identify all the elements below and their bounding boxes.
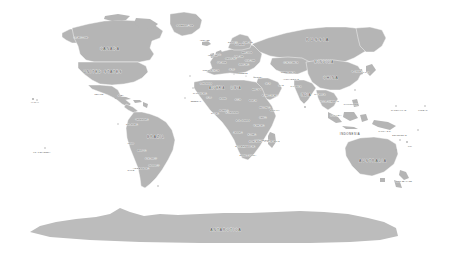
map-label-canada: CANADA [100,47,120,51]
map-label-chile: CHILE [128,169,135,171]
map-label-pacific-island: FR. POLYNESIA [33,151,51,153]
map-label-italy: ITALY [229,68,236,70]
map-label-south-korea: S. KOREA [352,70,363,72]
island-cape-verde [184,97,185,98]
map-label-guinea-bissau: SENEGAL [191,100,202,102]
island-new-caledonia [395,149,397,151]
map-label-venezuela: VENEZUELA [135,118,149,120]
island-kiribati [424,105,426,107]
map-label-united-states: UNITED STATES [83,70,122,74]
map-label-solomon: SOLOMON IS. [392,134,407,136]
map-label-iraq: IRAQ [265,82,271,84]
map-label-angola: ANGOLA [233,131,243,133]
world-map-svg: RUSSIACHINACANADAUNITED STATESBRAZILAUST… [0,0,461,257]
map-label-afghanistan: AFGHANISTAN [283,78,299,80]
island-canary [192,87,193,88]
map-label-turkey: TURKEY [253,76,263,78]
map-label-ukraine: UKRAINE [245,59,256,61]
map-label-south-africa: SOUTH AFRICA [240,154,257,156]
map-label-kenya: KENYA [259,116,267,118]
map-label-russia: RUSSIA [306,37,330,42]
island-galapagos [117,123,118,124]
map-label-saudi-arabia: SAUDI ARABIA [262,94,279,96]
map-label-algeria: ALGERIA [209,86,225,90]
map-label-zimbabwe: ZIMBABWE [249,140,262,142]
map-label-bolivia: BOLIVIA [137,149,147,151]
map-label-dr-congo: D.R. CONGO [236,119,250,121]
map-label-uruguay: URUGUAY [148,164,160,166]
map-label-ireland: IRELAND [208,54,218,56]
map-label-poland: POLAND [234,55,244,57]
map-label-india: INDIA [301,93,311,97]
land-tasmania [380,178,385,182]
map-label-new-zealand: NEW ZEALAND [396,180,413,182]
map-label-france: FRANCE [217,61,227,63]
map-label-botswana: BOTSWANA [243,145,256,147]
map-label-papua: PAPUA N.G. [378,130,391,132]
map-label-myanmar: MYANMAR [314,93,326,95]
map-label-fiji: FIJI [408,145,412,147]
map-label-mexico: MEXICO [95,93,104,95]
map-label-cameroon: CAMEROON [225,111,239,113]
map-label-morocco: MOROCCO [200,82,212,84]
map-label-finland: FINLAND [243,41,253,43]
map-label-japan: JAPAN [362,71,370,73]
map-label-vietnam: VIETNAM [329,100,339,102]
map-label-kazakhstan: KAZAKHSTAN [284,61,299,63]
map-label-indonesia: INDONESIA [340,132,360,136]
map-label-marshall: MARSHALL IS. [391,109,407,111]
map-label-chad: CHAD [235,98,242,100]
map-label-peru: PERU [128,142,135,144]
map-label-malaysia: MALAYSIA [330,114,342,116]
map-label-sweden: SWEDEN [235,43,245,45]
map-label-mali: MALI [206,96,212,98]
map-label-alaska: ALASKA (US) [74,36,89,38]
map-label-argentina: ARGENTINA [133,167,150,169]
map-label-hawaii: HAWAII [31,101,39,103]
map-label-china: CHINA [323,76,339,80]
map-label-somalia: SOMALIA [270,109,281,111]
world-map-canvas: RUSSIACHINACANADAUNITED STATESBRAZILAUST… [0,0,461,257]
island-sri-lanka [304,106,306,108]
map-label-romania: ROMANIA [239,63,250,65]
island-polynesia [44,147,46,149]
map-label-uzbekistan: UZBEKISTAN [281,71,296,73]
map-label-sudan: SUDAN [249,99,257,101]
map-label-greece: GREECE [238,72,248,74]
map-label-greenland: GREENLAND [176,24,193,26]
map-label-paraguay: PARAGUAY [145,157,158,159]
island-crete [245,75,246,76]
map-label-tanzania: TANZANIA [253,124,265,126]
map-label-libya: LIBYA [231,86,241,90]
map-label-niger: NIGER [219,97,227,99]
map-label-zambia: ZAMBIA [248,133,257,135]
map-label-antarctica: ANTARCTICA [210,228,241,232]
map-label-belarus: BELARUS [242,51,253,53]
island-azores [189,75,190,76]
map-label-portugal: PORTUGAL [203,69,215,71]
map-label-australia: AUSTRALIA [359,159,387,163]
island-samoa [417,129,419,131]
island-marshall [395,105,397,107]
map-label-ghana: GHANA [211,112,219,114]
map-label-kiribati: KIRIBATI [418,109,428,111]
map-label-pakistan: PAKISTAN [290,85,301,87]
map-label-cuba: CUBA [118,94,125,96]
map-label-ethiopia: ETHIOPIA [260,106,271,108]
island-vanuatu [399,139,401,141]
island-taiwan [354,89,356,91]
island-fiji [406,141,408,143]
island-sicily [233,73,234,74]
island-falklands [157,185,159,187]
map-label-iran: IRAN [278,84,284,86]
map-label-mongolia: MONGOLIA [314,60,333,64]
map-label-philippines: PHILIPPINES [344,103,359,105]
map-label-brazil: BRAZIL [147,135,165,139]
map-label-colombia: COLOMBIA [126,123,138,125]
map-label-egypt: EGYPT [252,88,262,90]
map-label-mauritania: MAURITANIA [193,92,208,94]
map-label-germany: GERMANY [225,57,237,59]
map-label-iceland: ICELAND [200,39,210,41]
